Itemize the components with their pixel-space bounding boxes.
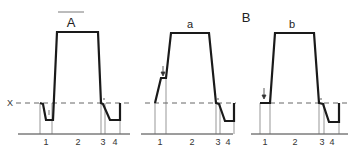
x-threshold-label: X <box>7 98 13 108</box>
panel-b-phase-2: 2 <box>292 137 297 147</box>
panel-b-arrow-icon <box>262 88 266 99</box>
panel-A: A X 1 2 3 4 <box>7 15 130 147</box>
panel-A-phase-3: 3 <box>100 137 105 147</box>
panel-a-trace <box>155 33 234 121</box>
panel-b-phase-3: 3 <box>319 137 324 147</box>
panel-b-title: b <box>289 18 295 30</box>
panel-b-phase-1: 1 <box>262 137 267 147</box>
panel-a-title: a <box>187 18 194 30</box>
panel-b-phase-4: 4 <box>329 137 334 147</box>
panel-a: a 1 2 3 4 <box>141 18 236 147</box>
waveform-diagram: A X 1 2 3 4 a <box>0 0 348 153</box>
panel-a-dot-mark <box>217 98 219 100</box>
panel-b-dot-mark <box>320 98 322 100</box>
panel-a-phase-3: 3 <box>215 137 220 147</box>
panel-A-phase-4: 4 <box>112 137 117 147</box>
panel-A-dot-mark <box>103 98 105 100</box>
panel-a-arrow-icon <box>161 66 165 76</box>
panel-a-phase-4: 4 <box>225 137 230 147</box>
panel-b: B b 1 2 3 4 <box>242 10 348 147</box>
panel-A-title: A <box>67 15 76 30</box>
panel-b-trace <box>260 33 339 122</box>
panel-A-phase-2: 2 <box>75 137 80 147</box>
section-B-label: B <box>242 10 251 25</box>
panel-a-phase-1: 1 <box>157 137 162 147</box>
panel-A-phase-1: 1 <box>43 137 48 147</box>
panel-a-phase-2: 2 <box>189 137 194 147</box>
